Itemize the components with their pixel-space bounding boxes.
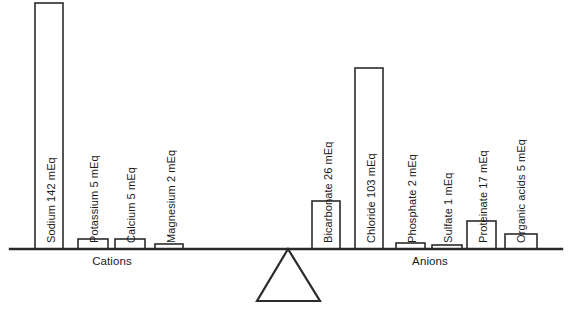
bar-label-phosphate: Phosphate 2 mEq — [407, 154, 418, 243]
bars-layer — [35, 3, 537, 249]
bar-label-chloride: Chloride 103 mEq — [366, 153, 377, 243]
bar-label-magnesium: Magnesium 2 mEq — [166, 150, 177, 243]
group-label-cations: Cations — [92, 255, 132, 267]
bar-label-bicarbonate: Bicarbonate 26 mEq — [323, 142, 334, 243]
bar-label-proteinate: Proteinate 17 mEq — [478, 150, 489, 243]
bar-label-organic-acids: Organic acids 5 mEq — [516, 139, 527, 243]
fulcrum-triangle — [257, 249, 320, 301]
bar-label-potassium: Potassium 5 mEq — [89, 155, 100, 243]
electrolyte-balance-figure: Sodium 142 mEqPotassium 5 mEqCalcium 5 m… — [0, 0, 572, 311]
bar-label-sulfate: Sulfate 1 mEq — [443, 173, 454, 243]
bar-label-calcium: Calcium 5 mEq — [126, 167, 137, 243]
group-label-anions: Anions — [412, 255, 448, 267]
bar-label-sodium: Sodium 142 mEq — [46, 157, 57, 243]
